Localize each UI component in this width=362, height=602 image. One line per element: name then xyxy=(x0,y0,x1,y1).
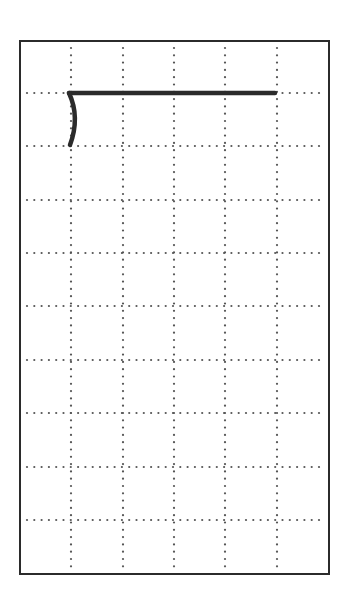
character-strokes xyxy=(69,93,275,145)
practice-grid xyxy=(0,0,362,602)
curved-vertical-stroke xyxy=(69,93,75,145)
dotted-guide-lines xyxy=(26,47,320,568)
